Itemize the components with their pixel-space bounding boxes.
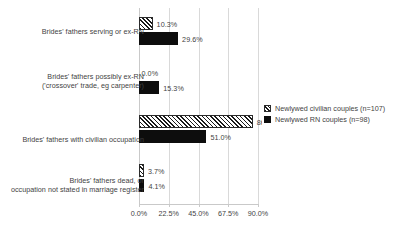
x-tick-mark (199, 204, 200, 207)
bar-value-label: 10.3% (157, 19, 178, 28)
x-tick-label: 22.5% (159, 209, 179, 218)
x-tick-label: 0.0% (131, 209, 147, 218)
gridline-4 (258, 8, 259, 204)
legend-label: Newlywed civilian couples (n=107) (275, 104, 385, 113)
x-tick-label: 90.0% (248, 209, 268, 218)
x-tick-label: 67.5% (218, 209, 238, 218)
bar-value-label: 51.0% (210, 132, 231, 141)
x-tick-mark (258, 204, 259, 207)
legend-label: Newlywed RN couples (n=98) (275, 115, 370, 124)
bar-group: 10.3% 29.6% (139, 8, 258, 57)
category-label-line: Brides' fathers with civilian occupation (0, 136, 144, 145)
bar-group: 0.0% 15.3% (139, 57, 258, 106)
bar-group: 3.7% 4.1% (139, 155, 258, 204)
x-tick-mark (139, 204, 140, 207)
bar-value-label: 4.1% (148, 181, 165, 190)
legend-item-rn[interactable]: Newlywed RN couples (n=98) (264, 114, 385, 124)
bar-value-label: 3.7% (148, 166, 165, 175)
legend-swatch-solid-icon (264, 116, 271, 123)
bar-rn[interactable] (139, 130, 206, 143)
chart-legend: Newlywed civilian couples (n=107) Newlyw… (262, 101, 388, 127)
bar-rn[interactable] (139, 32, 178, 45)
category-label-line: ('crossover' trade, eg carpenter) (0, 82, 144, 91)
bar-chart: 10.3% 29.6% 0.0% 15.3% 86.0% (0, 0, 398, 239)
category-label-line: Brides' fathers serving or ex-RN (0, 28, 144, 37)
legend-swatch-hatched-icon (264, 105, 271, 112)
x-tick-mark (228, 204, 229, 207)
category-label-0: Brides' fathers serving or ex-RN (0, 28, 144, 37)
x-tick-label: 45.0% (188, 209, 208, 218)
bar-value-label: 15.3% (163, 83, 184, 92)
bar-value-label: 29.6% (182, 34, 203, 43)
bar-civilian[interactable] (139, 115, 253, 128)
category-label-line: occupation not stated in marriage regist… (0, 186, 144, 195)
legend-item-civilian[interactable]: Newlywed civilian couples (n=107) (264, 103, 385, 113)
x-tick-mark (169, 204, 170, 207)
plot-area: 10.3% 29.6% 0.0% 15.3% 86.0% (139, 8, 258, 204)
category-label-1: Brides' fathers possibly ex-RN ('crossov… (0, 73, 144, 90)
category-label-2: Brides' fathers with civilian occupation (0, 136, 144, 145)
category-label-3: Brides' fathers dead, or occupation not … (0, 177, 144, 194)
bar-group: 86.0% 51.0% (139, 106, 258, 155)
